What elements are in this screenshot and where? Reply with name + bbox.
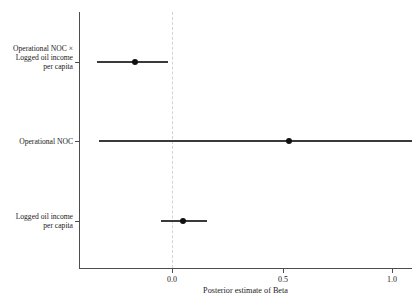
- clipped-title: [86, 0, 386, 2]
- x-axis-spine: [79, 268, 412, 269]
- coefficient-plot: Operational NOC × Logged oil income per …: [0, 0, 415, 300]
- x-tick-label-1: 0.5: [278, 275, 288, 284]
- y-axis-label-operational-noc: Operational NOC: [19, 137, 73, 146]
- estimate-point: [286, 138, 292, 144]
- x-tick-label-2: 1.0: [387, 275, 397, 284]
- x-tick-label-0: 0.0: [167, 275, 177, 284]
- credible-interval-line: [99, 140, 411, 141]
- y-tick-mark: [75, 141, 79, 142]
- estimate-point: [180, 218, 186, 224]
- estimate-point: [132, 59, 138, 65]
- x-tick-mark: [392, 269, 393, 273]
- y-tick-mark: [75, 62, 79, 63]
- y-axis-label-logged-oil-income: Logged oil income per capita: [16, 212, 73, 230]
- x-tick-mark: [283, 269, 284, 273]
- y-axis-spine: [79, 12, 80, 269]
- x-tick-mark: [172, 269, 173, 273]
- y-tick-mark: [75, 221, 79, 222]
- x-axis-title: Posterior estimate of Beta: [79, 286, 412, 295]
- y-axis-label-interaction: Operational NOC × Logged oil income per …: [13, 44, 73, 72]
